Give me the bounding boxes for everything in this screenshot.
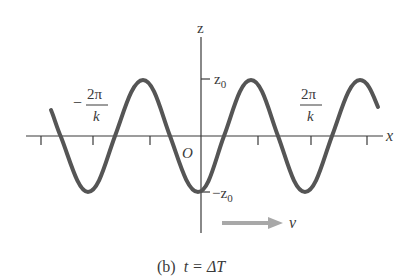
origin-label: O	[182, 145, 193, 161]
velocity-label: v	[289, 214, 297, 231]
velocity-arrow-icon	[222, 217, 283, 229]
wave-diagram: z x O z0 −z0 − 2π k 2π k v (b)t = ΔT	[0, 0, 418, 279]
z0-label: z0	[214, 71, 227, 90]
svg-text:2π: 2π	[301, 86, 317, 102]
neg-z0-label: −z0	[212, 185, 233, 204]
figure-caption: (b)t = ΔT	[157, 258, 226, 276]
x-axis-label: x	[385, 127, 393, 144]
svg-text:−: −	[73, 94, 82, 111]
z-axis-label: z	[197, 20, 204, 36]
svg-text:k: k	[93, 108, 100, 124]
pos-wavelength-label: 2π k	[300, 86, 322, 124]
svg-text:k: k	[307, 108, 314, 124]
x-axis-ticks	[41, 136, 367, 145]
svg-text:2π: 2π	[87, 86, 103, 102]
neg-wavelength-label: − 2π k	[73, 86, 108, 124]
